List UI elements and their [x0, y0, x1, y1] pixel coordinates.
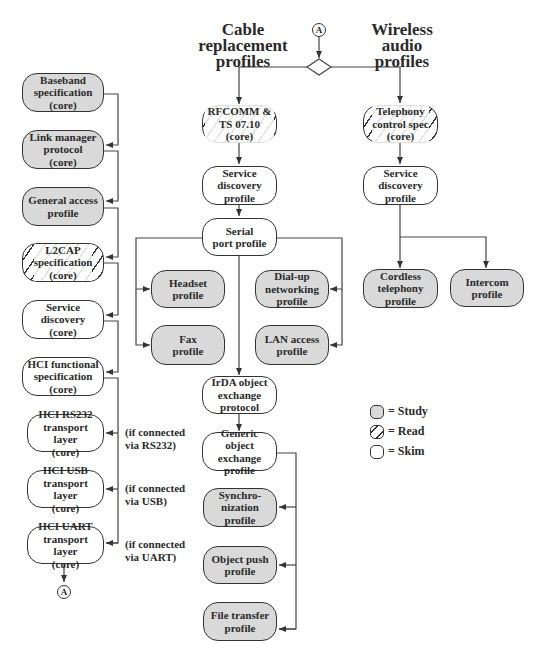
node-object-push-profile[interactable]: Object push profile: [203, 546, 277, 584]
legend-read-swatch: [370, 425, 384, 439]
node-hci-uart[interactable]: HCI UART transport layer (core): [27, 526, 104, 564]
legend-read-label: = Read: [388, 424, 425, 439]
node-link-manager-protocol[interactable]: Link manager protocol (core): [22, 130, 104, 169]
node-service-discovery-core[interactable]: Service discovery (core): [22, 300, 104, 339]
node-serial-port-profile[interactable]: Serial port profile: [202, 218, 277, 256]
legend-study-label: = Study: [388, 404, 428, 419]
node-rfcomm[interactable]: RFCOMM & TS 07.10 (core): [202, 105, 277, 143]
connector-a-top: A: [312, 23, 326, 37]
legend-study: = Study: [370, 404, 428, 419]
legend-skim-swatch: [370, 445, 384, 459]
node-telephony-control-spec-label: Telephony control spec (core): [372, 105, 428, 143]
node-generic-obex-profile[interactable]: Generic object exchange profile: [202, 432, 277, 471]
note-usb: (if connected via USB): [125, 482, 185, 507]
node-irda-obex-protocol[interactable]: IrDA object exchange protocol: [202, 376, 277, 414]
node-dialup-networking-profile[interactable]: Dial-up networking profile: [255, 270, 329, 308]
node-l2cap-spec[interactable]: L2CAP specification (core): [22, 243, 104, 282]
note-rs232: (if connected via RS232): [125, 426, 185, 451]
node-lan-access-profile[interactable]: LAN access profile: [255, 325, 329, 365]
node-hci-rs232[interactable]: HCI RS232 transport layer (core): [27, 414, 104, 452]
legend-skim-label: = Skim: [388, 444, 425, 459]
node-fax-profile[interactable]: Fax profile: [151, 325, 225, 365]
node-synchronization-profile[interactable]: Synchro- nization profile: [203, 488, 277, 527]
node-cable-service-discovery[interactable]: Service discovery profile: [202, 166, 277, 205]
heading-wireless-audio: Wireless audio profiles: [362, 22, 442, 70]
legend-skim: = Skim: [370, 444, 425, 459]
node-cordless-telephony-profile[interactable]: Cordless telephony profile: [363, 269, 438, 308]
node-wireless-service-discovery[interactable]: Service discovery profile: [363, 166, 438, 205]
legend-read: = Read: [370, 424, 425, 439]
node-general-access-profile[interactable]: General access profile: [22, 187, 104, 226]
heading-cable-replacement: Cable replacement profiles: [195, 22, 291, 70]
connector-a-bottom: A: [57, 585, 71, 599]
node-hci-usb[interactable]: HCI USB transport layer (core): [27, 470, 104, 508]
node-baseband-spec[interactable]: Baseband specification (core): [22, 73, 104, 112]
node-intercom-profile[interactable]: Intercom profile: [450, 269, 524, 307]
node-rfcomm-label: RFCOMM & TS 07.10 (core): [205, 105, 274, 143]
note-uart: (if connected via UART): [125, 538, 185, 563]
node-hci-functional-spec[interactable]: HCI functional specification (core): [22, 357, 104, 396]
node-telephony-control-spec[interactable]: Telephony control spec (core): [363, 105, 438, 143]
node-l2cap-spec-label: L2CAP specification (core): [34, 244, 93, 282]
node-headset-profile[interactable]: Headset profile: [151, 270, 225, 308]
legend-study-swatch: [370, 405, 384, 419]
node-file-transfer-profile[interactable]: File transfer profile: [203, 602, 277, 641]
